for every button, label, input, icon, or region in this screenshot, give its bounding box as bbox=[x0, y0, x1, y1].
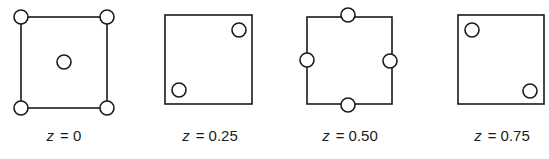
atom-circle-icon bbox=[341, 98, 355, 112]
layer-label: z= 0.50 bbox=[322, 127, 378, 144]
atom-circle-icon bbox=[341, 8, 355, 22]
z-variable: z bbox=[47, 127, 55, 144]
atom-circle-icon bbox=[465, 23, 479, 37]
atom-circle-icon bbox=[232, 23, 246, 37]
atom-circle-icon bbox=[172, 83, 186, 97]
layer-label: z= 0.75 bbox=[474, 127, 530, 144]
layer-panel bbox=[14, 10, 114, 115]
atom-circle-icon bbox=[523, 84, 537, 98]
z-variable: z bbox=[474, 127, 482, 144]
layer-panel bbox=[458, 15, 544, 104]
atom-circle-icon bbox=[100, 101, 114, 115]
atom-circle-icon bbox=[14, 101, 28, 115]
z-variable: z bbox=[182, 127, 190, 144]
unit-cell-layers-diagram bbox=[0, 0, 549, 159]
layer-label: z= 0 bbox=[47, 127, 82, 144]
layer-label: z= 0.25 bbox=[182, 127, 238, 144]
atom-circle-icon bbox=[383, 54, 397, 68]
cell-square bbox=[307, 17, 392, 104]
layer-panel bbox=[300, 8, 397, 112]
atom-circle-icon bbox=[14, 10, 28, 24]
z-value: = 0.25 bbox=[196, 127, 238, 144]
atom-circle-icon bbox=[100, 10, 114, 24]
z-value: = 0.50 bbox=[336, 127, 378, 144]
z-value: = 0 bbox=[60, 127, 81, 144]
layer-panel bbox=[165, 15, 252, 104]
atom-circle-icon bbox=[57, 55, 71, 69]
atom-circle-icon bbox=[300, 53, 314, 67]
z-variable: z bbox=[322, 127, 330, 144]
z-value: = 0.75 bbox=[488, 127, 530, 144]
